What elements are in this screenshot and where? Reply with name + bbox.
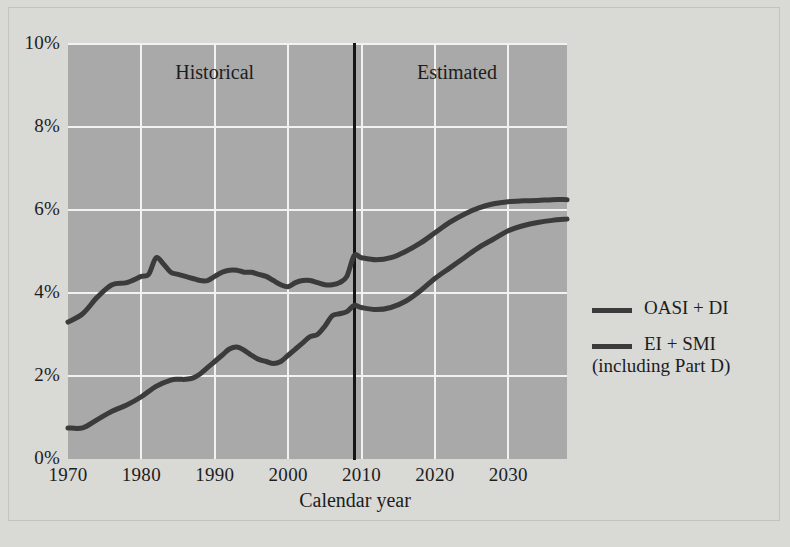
x-tick-label-1970: 1970 <box>48 464 87 486</box>
x-tick-label-2010: 2010 <box>342 464 381 486</box>
estimated-band-label: Estimated <box>417 61 497 84</box>
x-tick-label-2020: 2020 <box>415 464 454 486</box>
chart-figure: 0%2%4%6%8%10% 19701980199020002010202020… <box>0 0 790 547</box>
x-tick-label-1990: 1990 <box>195 464 234 486</box>
legend-label-1: OASI + DI <box>644 297 729 318</box>
x-tick-label-2030: 2030 <box>489 464 528 486</box>
historical-band-label: Historical <box>175 61 254 84</box>
x-axis-title: Calendar year <box>205 489 505 512</box>
legend-item-2: EI + SMI (including Part D) <box>592 333 782 377</box>
legend-label-2: EI + SMI (including Part D) <box>592 333 730 376</box>
legend-swatch-2 <box>592 344 632 349</box>
chart-legend: OASI + DIEI + SMI (including Part D) <box>592 297 782 391</box>
x-tick-label-2000: 2000 <box>269 464 308 486</box>
x-tick-label-1980: 1980 <box>122 464 161 486</box>
x-axis-tick-labels: 1970198019902000201020202030 <box>0 0 790 547</box>
legend-item-1: OASI + DI <box>592 297 782 319</box>
legend-swatch-1 <box>592 308 632 313</box>
